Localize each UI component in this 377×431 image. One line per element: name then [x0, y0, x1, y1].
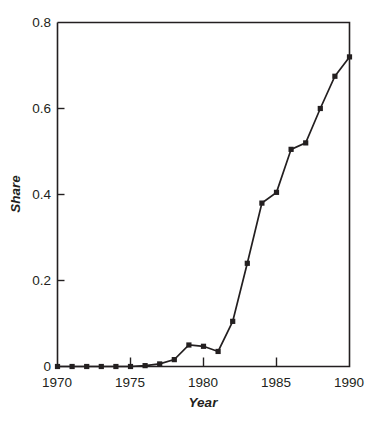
data-point — [303, 140, 308, 145]
data-point — [289, 147, 294, 152]
data-point — [245, 261, 250, 266]
y-tick-label-0.8: 0.8 — [32, 15, 51, 30]
x-tick-label-1980: 1980 — [188, 375, 218, 390]
y-tick-label-0.6: 0.6 — [32, 101, 51, 116]
x-tick-label-1990: 1990 — [334, 375, 364, 390]
data-point — [99, 364, 104, 369]
data-point — [230, 319, 235, 324]
data-point — [186, 342, 191, 347]
data-point — [84, 364, 89, 369]
y-tick-label-0: 0 — [43, 359, 51, 374]
y-axis-ticks — [58, 109, 65, 281]
y-tick-label-0.2: 0.2 — [32, 273, 51, 288]
y-axis-tick-labels: 0.8 0.6 0.4 0.2 0 — [32, 15, 51, 374]
data-point — [70, 364, 75, 369]
series-line-share — [58, 57, 350, 367]
figure-container: 0.8 0.6 0.4 0.2 0 1970 1975 1980 1985 19… — [0, 0, 377, 431]
data-point — [201, 344, 206, 349]
x-tick-label-1985: 1985 — [261, 375, 291, 390]
data-point — [332, 74, 337, 79]
x-axis-title: Year — [189, 395, 219, 410]
data-point — [128, 364, 133, 369]
series-markers-share — [55, 54, 352, 369]
data-point — [216, 349, 221, 354]
data-point — [172, 357, 177, 362]
data-point — [347, 54, 352, 59]
y-axis-title: Share — [8, 175, 23, 213]
data-point — [274, 190, 279, 195]
data-point — [113, 364, 118, 369]
axis-spines — [58, 23, 350, 367]
y-tick-label-0.4: 0.4 — [32, 187, 51, 202]
data-point — [143, 363, 148, 368]
x-tick-label-1975: 1975 — [115, 375, 145, 390]
plot-axes — [58, 23, 350, 367]
data-point — [259, 201, 264, 206]
data-point — [318, 106, 323, 111]
share-vs-year-line-chart: 0.8 0.6 0.4 0.2 0 1970 1975 1980 1985 19… — [0, 0, 377, 431]
x-axis-tick-labels: 1970 1975 1980 1985 1990 — [42, 375, 364, 390]
data-point — [55, 364, 60, 369]
x-tick-label-1970: 1970 — [42, 375, 72, 390]
data-point — [157, 361, 162, 366]
